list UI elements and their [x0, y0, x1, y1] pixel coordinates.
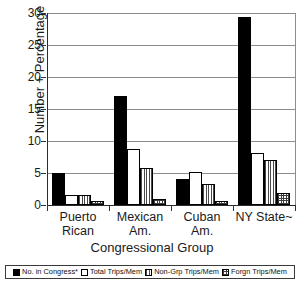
bar: [238, 17, 251, 205]
y-axis-tick-label: 5: [19, 168, 41, 178]
bar-chart-figure: Number + Percentage 051015202530 Congres…: [0, 0, 304, 294]
bar: [153, 199, 166, 205]
plot-area: [47, 13, 296, 206]
bar: [78, 195, 91, 205]
chart-legend: No. in Congress*Total Trips/MemNon-Grp T…: [5, 265, 295, 279]
bar: [189, 172, 202, 205]
y-axis-tick-mark: [41, 205, 46, 206]
bar: [277, 193, 290, 205]
bar: [65, 195, 78, 205]
x-axis-category-label: MexicanAm.: [105, 210, 175, 238]
category-label-line-2: Am.: [167, 224, 237, 238]
y-axis-tick-mark: [41, 141, 46, 142]
legend-label: Non-Grp Trips/Mem: [154, 268, 219, 276]
legend-label: Total Trips/Mem: [90, 268, 142, 276]
legend-label: Forgn Trips/Mem: [231, 268, 287, 276]
bar: [264, 160, 277, 205]
y-axis-tick-mark: [41, 13, 46, 14]
bar: [176, 179, 189, 205]
bar-group: [172, 13, 234, 205]
category-label-line-1: Puerto: [60, 210, 97, 224]
legend-label: No. in Congress*: [22, 268, 78, 276]
y-axis-tick-label: 30: [19, 8, 41, 18]
bar-group: [234, 13, 296, 205]
x-axis-title: Congressional Group: [0, 240, 304, 255]
category-label-line-1: Mexican: [117, 210, 164, 224]
legend-item: Non-Grp Trips/Mem: [145, 268, 219, 276]
bar: [140, 168, 153, 205]
bar-group: [110, 13, 172, 205]
category-label-line-1: NY State~: [235, 210, 292, 224]
bar: [202, 184, 215, 205]
y-axis-tick-mark: [41, 109, 46, 110]
bar: [114, 96, 127, 205]
y-axis-tick-mark: [41, 45, 46, 46]
legend-item: Total Trips/Mem: [81, 268, 142, 276]
y-axis-tick-mark: [41, 77, 46, 78]
bar: [91, 201, 104, 205]
category-label-line-1: Cuban: [184, 210, 221, 224]
legend-swatch-icon: [13, 269, 20, 276]
legend-swatch-icon: [145, 269, 152, 276]
x-axis-category-label: PuertoRican: [43, 210, 113, 238]
legend-swatch-icon: [222, 269, 229, 276]
bar: [251, 153, 264, 205]
y-axis-tick-mark: [41, 173, 46, 174]
bar: [215, 201, 228, 205]
bar: [127, 149, 140, 205]
x-axis-category-label: CubanAm.: [167, 210, 237, 238]
y-axis-tick-label: 20: [19, 72, 41, 82]
y-axis-tick-label: 25: [19, 40, 41, 50]
bar: [52, 173, 65, 205]
legend-item: Forgn Trips/Mem: [222, 268, 287, 276]
x-axis-category-label: NY State~: [229, 210, 299, 224]
category-label-line-2: Rican: [43, 224, 113, 238]
bar-group: [48, 13, 110, 205]
category-label-line-2: Am.: [105, 224, 175, 238]
x-axis-tick-mark: [295, 206, 296, 211]
y-axis-tick-label: 10: [19, 136, 41, 146]
legend-item: No. in Congress*: [13, 268, 78, 276]
y-axis-tick-label: 15: [19, 104, 41, 114]
y-axis-tick-label: 0: [19, 200, 41, 210]
legend-swatch-icon: [81, 269, 88, 276]
